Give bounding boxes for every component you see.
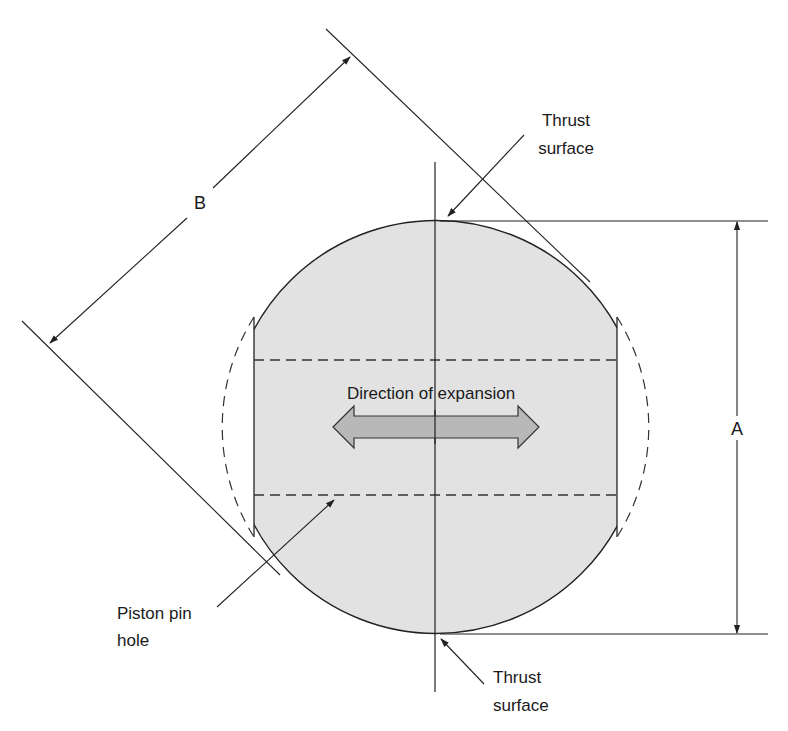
thrust-bottom-leader <box>441 639 484 684</box>
thrust-top-leader <box>448 135 524 216</box>
piston-pin-hole-label-line1: Piston pin <box>117 604 192 623</box>
dimension-b-label: B <box>194 193 206 213</box>
thrust-surface-top-label-line2: surface <box>538 139 594 158</box>
direction-of-expansion-label: Direction of expansion <box>347 384 515 403</box>
piston-diagram: Direction of expansion A B Thrust surfac… <box>0 0 788 731</box>
thrust-surface-top-label-line1: Thrust <box>542 111 590 130</box>
dimension-a-label: A <box>731 419 743 439</box>
thrust-surface-bottom-label-line1: Thrust <box>493 668 541 687</box>
thrust-surface-bottom-label-line2: surface <box>493 696 549 715</box>
piston-pin-hole-label-line2: hole <box>117 631 149 650</box>
